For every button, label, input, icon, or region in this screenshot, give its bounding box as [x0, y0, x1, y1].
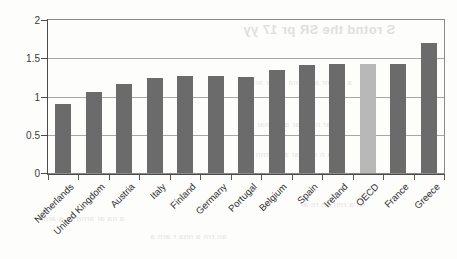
- y-axis-tick-label: 0: [6, 168, 40, 179]
- x-axis-label-france: France: [382, 181, 411, 210]
- x-axis-label-germany: Germany: [193, 181, 228, 216]
- x-axis-tick: [170, 175, 171, 180]
- y-axis-tick: [41, 97, 47, 98]
- bar-austria[interactable]: [116, 84, 132, 173]
- bar-slot: [170, 20, 200, 173]
- bar-finland[interactable]: [177, 76, 193, 173]
- x-axis-label-belgium: Belgium: [257, 181, 289, 213]
- x-axis-tick: [48, 175, 49, 180]
- y-axis-tick: [41, 58, 47, 59]
- bar-netherlands[interactable]: [55, 104, 71, 173]
- bar-slot: [322, 20, 352, 173]
- bar-united-kingdom[interactable]: [86, 92, 102, 173]
- y-axis-tick-label: 1: [6, 91, 40, 102]
- bar-slot: [78, 20, 108, 173]
- bar-portugal[interactable]: [238, 77, 254, 173]
- x-axis-line: [47, 174, 445, 175]
- bar-chart-figure: S rotnd the SR pr 17 yy a aarmr arr a na…: [0, 0, 457, 259]
- y-axis-tick-label: 1.5: [6, 53, 40, 64]
- x-axis-tick: [200, 175, 201, 180]
- x-axis-label-austria: Austria: [108, 181, 137, 210]
- x-axis-tick: [414, 175, 415, 180]
- x-axis-tick: [78, 175, 79, 180]
- bar-slot: [48, 20, 78, 173]
- bar-italy[interactable]: [147, 78, 163, 173]
- x-axis-tick: [444, 175, 445, 180]
- y-axis-tick: [41, 20, 47, 21]
- bars-group: [48, 20, 444, 173]
- x-axis-label-finland: Finland: [168, 181, 198, 211]
- y-axis-tick-label: 0.5: [6, 129, 40, 140]
- x-axis-label-spain: Spain: [295, 181, 320, 206]
- bar-germany[interactable]: [208, 76, 224, 173]
- y-axis-line: [47, 19, 48, 175]
- y-axis-tick: [41, 173, 47, 174]
- bar-greece[interactable]: [421, 43, 437, 173]
- x-axis-tick: [383, 175, 384, 180]
- bar-slot: [231, 20, 261, 173]
- bar-slot: [139, 20, 169, 173]
- x-axis-tick: [231, 175, 232, 180]
- bar-ireland[interactable]: [329, 64, 345, 173]
- y-axis-tick: [41, 135, 47, 136]
- x-axis-tick: [322, 175, 323, 180]
- bar-slot: [353, 20, 383, 173]
- bar-belgium[interactable]: [269, 70, 285, 173]
- bar-slot: [383, 20, 413, 173]
- x-axis-tick: [261, 175, 262, 180]
- x-axis-label-portugal: Portugal: [226, 181, 259, 214]
- bar-slot: [200, 20, 230, 173]
- x-axis-tick: [109, 175, 110, 180]
- bar-slot: [414, 20, 444, 173]
- bar-oecd[interactable]: [360, 64, 376, 173]
- x-axis-tick: [292, 175, 293, 180]
- bar-spain[interactable]: [299, 65, 315, 173]
- x-axis-tick: [139, 175, 140, 180]
- x-axis-label-greece: Greece: [412, 181, 442, 211]
- x-axis-label-oecd: OECD: [353, 181, 380, 208]
- y-axis-tick-label: 2: [6, 15, 40, 26]
- bar-france[interactable]: [390, 64, 406, 173]
- x-axis-label-italy: Italy: [147, 181, 167, 201]
- bar-slot: [261, 20, 291, 173]
- bar-slot: [109, 20, 139, 173]
- x-axis-label-ireland: Ireland: [322, 181, 350, 209]
- x-axis-labels-group: NetherlandsUnited KingdomAustriaItalyFin…: [48, 181, 444, 251]
- bar-slot: [292, 20, 322, 173]
- x-axis-tick: [353, 175, 354, 180]
